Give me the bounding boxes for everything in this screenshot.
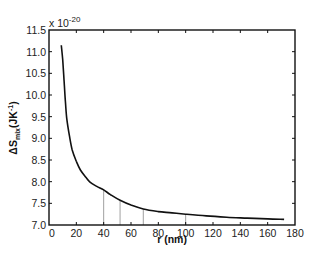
y-multiplier: x 10-20 (49, 15, 81, 29)
y-tick-label: 11.5 (26, 24, 46, 36)
x-tick-label: 0 (49, 227, 55, 239)
svg-text:ΔSmix(JK-1): ΔSmix(JK-1) (7, 101, 21, 154)
y-axis-ticks: 7.07.58.08.59.09.510.010.511.011.5 (26, 24, 295, 231)
y-tick-label: 9.0 (31, 132, 46, 144)
y-tick-label: 9.5 (31, 111, 46, 123)
x-axis-ticks: 020406080100120140160180 (49, 30, 304, 239)
y-axis-label: ΔSmix(JK-1) (7, 101, 21, 154)
y-tick-label: 7.5 (31, 197, 46, 209)
plot-frame (49, 30, 295, 225)
x-tick-label: 120 (204, 227, 222, 239)
y-tick-label: 11.0 (26, 46, 46, 58)
y-tick-label: 10.5 (26, 67, 47, 79)
y-tick-label: 10.0 (26, 89, 47, 101)
x-tick-label: 180 (286, 227, 304, 239)
y-tick-label: 8.0 (31, 176, 46, 188)
y-tick-label: 7.0 (31, 219, 46, 231)
x-tick-label: 140 (232, 227, 250, 239)
x-tick-label: 160 (259, 227, 277, 239)
vertical-markers (104, 190, 186, 225)
x-axis-label: r (nm) (157, 233, 187, 245)
x-tick-label: 20 (70, 227, 82, 239)
x-tick-label: 40 (98, 227, 110, 239)
data-curve (61, 45, 284, 219)
y-tick-label: 8.5 (31, 154, 46, 166)
chart: 020406080100120140160180 7.07.58.08.59.0… (0, 0, 314, 262)
x-tick-label: 60 (125, 227, 137, 239)
